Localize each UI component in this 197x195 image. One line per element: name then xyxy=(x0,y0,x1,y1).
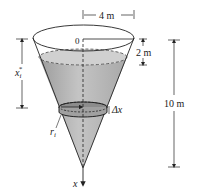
label-height: 10 m xyxy=(164,98,185,109)
label-axis-x: x xyxy=(72,178,78,189)
tank-rim xyxy=(33,25,134,51)
label-slice-radius: ri xyxy=(50,126,56,139)
diagram-canvas: 4 m 0 2 m 10 m xi* Δx ri x xyxy=(0,0,197,195)
label-top-radius: 4 m xyxy=(99,10,115,21)
slice-radius-leader xyxy=(56,115,61,128)
label-empty-depth: 2 m xyxy=(136,47,152,58)
label-slice-thickness: Δx xyxy=(111,104,123,115)
label-origin: 0 xyxy=(75,36,80,46)
conical-tank-diagram: 4 m 0 2 m 10 m xi* Δx ri x xyxy=(0,0,197,195)
label-slice-depth: xi* xyxy=(14,65,22,80)
